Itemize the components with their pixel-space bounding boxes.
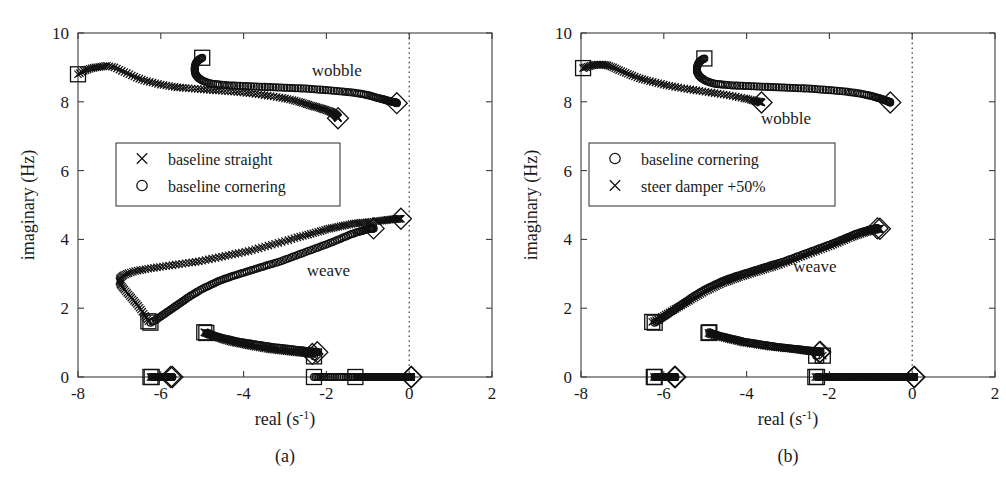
panel-caption: (b) <box>778 446 799 467</box>
y-tick-label: 10 <box>555 24 572 43</box>
panel-a: -8-6-4-2020246810real (s-1)imaginary (Hz… <box>0 0 503 487</box>
annotation-wobble: wobble <box>312 61 362 80</box>
y-tick-label: 4 <box>61 230 70 249</box>
data-layer <box>71 50 422 387</box>
legend-label: steer damper +50% <box>641 178 766 196</box>
legend-label: baseline cornering <box>168 178 286 196</box>
panel-a-plot: -8-6-4-2020246810real (s-1)imaginary (Hz… <box>0 0 503 487</box>
series-baseline-cornering <box>647 51 925 388</box>
series-baseline-straight <box>71 62 422 387</box>
branch-weave <box>645 218 891 329</box>
x-axis-label: real (s-1) <box>255 408 315 430</box>
x-tick-label: -2 <box>822 384 836 403</box>
series-steer-damper-50- <box>576 61 925 388</box>
y-tick-label: 8 <box>564 93 573 112</box>
y-tick-label: 2 <box>564 299 573 318</box>
y-tick-label: 4 <box>564 230 573 249</box>
x-tick-label: 2 <box>991 384 1000 403</box>
panel-b-plot: -8-6-4-2020246810real (s-1)imaginary (Hz… <box>503 0 1006 487</box>
data-layer <box>576 51 925 388</box>
y-tick-label: 10 <box>52 24 69 43</box>
panel-caption: (a) <box>275 446 295 467</box>
branch-wobble <box>71 62 349 129</box>
x-tick-label: 2 <box>488 384 497 403</box>
x-tick-label: -6 <box>154 384 168 403</box>
panel-b-canvas: -8-6-4-2020246810real (s-1)imaginary (Hz… <box>521 24 999 467</box>
x-tick-label: -4 <box>237 384 252 403</box>
y-tick-label: 2 <box>61 299 70 318</box>
x-tick-label: -6 <box>657 384 671 403</box>
annotation-wobble: wobble <box>761 109 811 128</box>
x-tick-label: -8 <box>71 384 85 403</box>
y-tick-label: 0 <box>564 368 573 387</box>
x-tick-label: -2 <box>319 384 333 403</box>
y-tick-label: 6 <box>61 162 70 181</box>
root-locus-figure: -8-6-4-2020246810real (s-1)imaginary (Hz… <box>0 0 1006 487</box>
x-tick-label: -4 <box>740 384 755 403</box>
branch-low-frequency <box>197 325 323 365</box>
annotation-weave: weave <box>793 257 836 276</box>
panel-b: -8-6-4-2020246810real (s-1)imaginary (Hz… <box>503 0 1006 487</box>
y-tick-label: 0 <box>61 368 70 387</box>
y-tick-label: 8 <box>61 93 70 112</box>
legend-label: baseline cornering <box>641 151 759 169</box>
y-axis-label: imaginary (Hz) <box>18 150 39 260</box>
branch-low-frequency <box>701 325 830 362</box>
annotation-weave: weave <box>307 261 350 280</box>
x-axis-label: real (s-1) <box>758 408 818 430</box>
y-tick-label: 6 <box>564 162 573 181</box>
x-tick-label: -8 <box>574 384 588 403</box>
panel-a-canvas: -8-6-4-2020246810real (s-1)imaginary (Hz… <box>18 24 496 467</box>
legend-label: baseline straight <box>168 151 273 169</box>
branch-wobble <box>694 51 901 113</box>
y-axis-label: imaginary (Hz) <box>521 150 542 260</box>
